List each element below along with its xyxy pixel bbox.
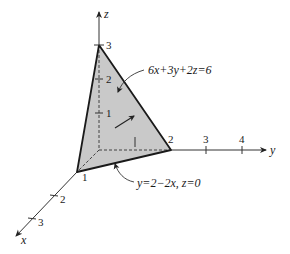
x-tick-2 (50, 195, 58, 196)
plane-equation-label: 6x+3y+2z=6 (148, 63, 212, 77)
z-tick-label-2: 2 (106, 73, 112, 85)
y-axis-label: y (269, 143, 276, 157)
x-axis-label: x (20, 233, 27, 247)
x-axis (16, 172, 77, 236)
x-tick-label-2: 2 (60, 193, 66, 205)
z-axis-label: z (103, 7, 109, 21)
x-tick-label-3: 3 (38, 216, 44, 228)
y-tick-label-3: 3 (203, 133, 209, 145)
trace-leader-icon (115, 164, 134, 182)
z-tick-label-3: 3 (106, 39, 112, 51)
z-tick-label-1: 1 (106, 107, 112, 119)
x-tick-3 (28, 218, 36, 219)
y-tick-label-2: 2 (168, 133, 174, 145)
tetrahedron-diagram: z y x 3 2 1 2 3 4 1 2 3 6x+3y+2z=6 y=2−2… (0, 0, 290, 254)
x-tick-label-1: 1 (82, 171, 88, 183)
y-tick-label-4: 4 (239, 133, 245, 145)
trace-equation-label: y=2−2x, z=0 (136, 176, 201, 190)
